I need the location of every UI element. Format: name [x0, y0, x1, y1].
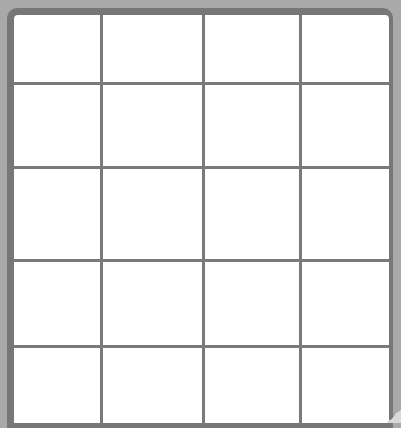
grid-row-divider	[14, 166, 389, 169]
grid-column-divider	[202, 15, 205, 423]
grid-row-divider	[14, 345, 389, 348]
grid-column-divider	[299, 15, 302, 423]
grid-row-divider	[14, 82, 389, 85]
grid-column-divider	[100, 15, 103, 423]
grid-row-divider	[14, 259, 389, 262]
page-corner-fold	[387, 409, 401, 423]
